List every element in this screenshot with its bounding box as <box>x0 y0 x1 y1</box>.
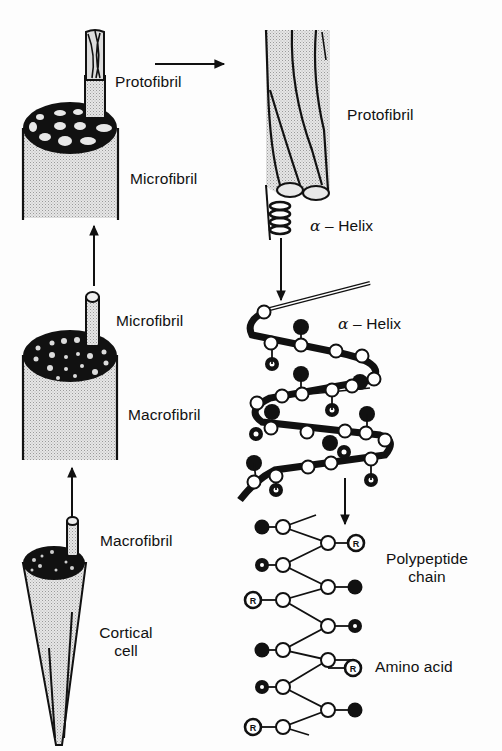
label-polypeptide-line2: chain <box>372 568 482 586</box>
label-cortical-line1: Cortical <box>86 624 166 642</box>
label-protofibril-right: Protofibril <box>347 106 414 124</box>
label-microfibril-top: Microfibril <box>130 170 197 188</box>
label-alpha-helix-small: α – Helix <box>310 217 373 236</box>
alpha-symbol: α <box>338 315 349 333</box>
label-amino-acid: Amino acid <box>375 658 453 676</box>
helix-text: – Helix <box>325 217 373 234</box>
r-label: R <box>250 596 257 606</box>
label-cortical-cell: Cortical cell <box>86 624 166 660</box>
label-microfibril-mid: Microfibril <box>116 312 183 330</box>
keratin-structure-diagram: R R R R <box>0 0 502 751</box>
label-macrofibril-mid: Macrofibril <box>128 406 201 424</box>
small-alpha-helix-coil <box>270 202 290 234</box>
label-protofibril-left: Protofibril <box>115 73 182 91</box>
label-polypeptide-line1: Polypeptide <box>372 550 482 568</box>
polypeptide-chain <box>245 515 364 735</box>
alpha-symbol: α <box>310 217 321 235</box>
microfibril-cylinder <box>23 30 118 220</box>
label-macrofibril-bottom: Macrofibril <box>100 532 173 550</box>
r-label: R <box>350 664 357 674</box>
helix-text: – Helix <box>353 315 401 332</box>
label-polypeptide-chain: Polypeptide chain <box>372 550 482 586</box>
r-label: R <box>353 539 360 549</box>
label-cortical-line2: cell <box>86 642 166 660</box>
cortical-cell-spindle <box>23 517 86 745</box>
label-alpha-helix-large: α – Helix <box>338 315 401 334</box>
r-label: R <box>250 723 257 733</box>
macrofibril-cylinder <box>23 292 117 460</box>
